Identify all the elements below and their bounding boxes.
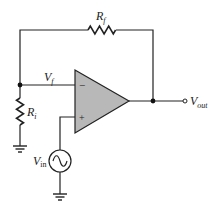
ground-icon — [53, 194, 67, 200]
output-node — [151, 99, 156, 104]
noninverting-input-sign: + — [79, 112, 85, 123]
feedback-node — [18, 83, 23, 88]
vout-label: Vout — [190, 94, 208, 110]
output-terminal — [183, 99, 187, 103]
rf-label: Rf — [95, 9, 107, 25]
vf-label: Vf — [44, 70, 55, 86]
circuit-svg: − + Rf Vf Ri Vout Vin — [0, 0, 217, 216]
feedback-resistor — [88, 26, 116, 34]
ri-label: Ri — [26, 105, 37, 121]
vin-label: Vin — [33, 154, 47, 169]
input-resistor — [17, 98, 24, 125]
ground-icon — [13, 146, 27, 152]
inverting-input-sign: − — [79, 79, 85, 91]
circuit-diagram: − + Rf Vf Ri Vout Vin — [0, 0, 217, 216]
